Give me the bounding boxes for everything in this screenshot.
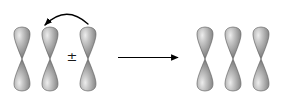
reactant-orbital-group-left [14, 27, 58, 91]
p-orbital-4-lower-lobe [197, 59, 213, 91]
p-orbital-2-lower-lobe [42, 59, 58, 91]
p-orbital-6-upper-lobe [253, 27, 269, 59]
p-orbital-1 [14, 27, 30, 91]
p-orbital-5-upper-lobe [225, 27, 241, 59]
p-orbital-1-lower-lobe [14, 59, 30, 91]
orbital-transfer-arrow [45, 14, 88, 25]
product-orbital-group [197, 27, 269, 91]
p-orbital-6 [253, 27, 269, 91]
p-orbital-2-upper-lobe [42, 27, 58, 59]
p-orbital-2 [42, 27, 58, 91]
p-orbital-4-upper-lobe [197, 27, 213, 59]
orbital-diagram-canvas: ± [0, 0, 285, 102]
plus-minus-operator: ± [62, 50, 82, 63]
p-orbital-3-lower-lobe [80, 59, 96, 91]
p-orbital-5-lower-lobe [225, 59, 241, 91]
p-orbital-1-upper-lobe [14, 27, 30, 59]
orbital-diagram-svg [0, 0, 285, 102]
p-orbital-5 [225, 27, 241, 91]
orbitals-layer [14, 27, 269, 91]
reactant-orbital-group-right [80, 27, 96, 91]
p-orbital-4 [197, 27, 213, 91]
p-orbital-3-upper-lobe [80, 27, 96, 59]
p-orbital-6-lower-lobe [253, 59, 269, 91]
p-orbital-3 [80, 27, 96, 91]
